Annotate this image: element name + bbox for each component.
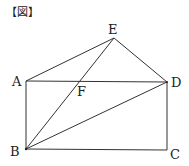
segments xyxy=(26,38,167,150)
point-labels: E A D F B C xyxy=(10,22,181,162)
segment-ED xyxy=(114,38,167,82)
geometry-diagram: E A D F B C xyxy=(0,0,189,166)
vertex-D-dot xyxy=(166,81,168,83)
segment-BE xyxy=(26,38,114,149)
segment-AE xyxy=(26,38,114,81)
label-F: F xyxy=(77,84,86,99)
segment-BD xyxy=(26,82,167,149)
label-B: B xyxy=(10,144,20,159)
label-E: E xyxy=(108,22,118,37)
segment-DA xyxy=(26,81,167,82)
segment-BC xyxy=(26,149,167,150)
vertex-B-dot xyxy=(25,148,27,150)
label-A: A xyxy=(11,74,22,89)
label-D: D xyxy=(171,75,181,90)
label-C: C xyxy=(170,147,180,162)
